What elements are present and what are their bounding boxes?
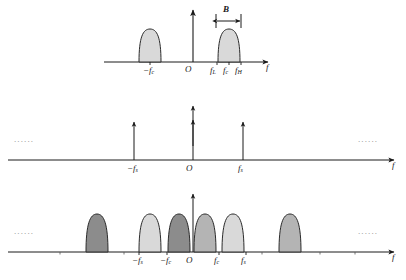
positive-lobe <box>218 29 240 62</box>
alias-lobe-6 <box>279 214 301 252</box>
bandwidth-indicator <box>216 14 241 28</box>
label-fc-panel1: fc <box>223 66 228 75</box>
label-minus-fc-panel3: −fc <box>160 256 171 265</box>
ellipsis-right-panel2: ...... <box>358 134 378 144</box>
axis-label-panel2: f <box>392 161 395 170</box>
label-fs-panel3: fs <box>241 256 246 265</box>
label-minus-fc-panel1: −fc <box>143 66 154 75</box>
alias-lobe-2 <box>139 214 161 252</box>
ellipsis-right-panel3: ...... <box>358 226 378 236</box>
label-minus-fs-panel3: −fs <box>132 256 143 265</box>
alias-lobe-3 <box>168 214 190 252</box>
figure-canvas <box>0 0 406 280</box>
alias-lobe-4 <box>194 214 216 252</box>
ellipsis-left-panel2: ...... <box>14 134 34 144</box>
figure-bandpass-sampling: O −fc fL fc fH f B ...... ...... −fs O f… <box>0 0 406 280</box>
label-fl: fL <box>210 66 216 75</box>
label-fs-panel2: fs <box>238 164 243 173</box>
panel-sampled-spectrum <box>8 194 394 255</box>
axis-label-panel3: f <box>392 253 395 262</box>
label-fh: fH <box>235 66 242 75</box>
origin-label-panel3: O <box>186 256 193 265</box>
alias-lobe-1 <box>86 214 108 252</box>
origin-label-panel1: O <box>185 65 192 74</box>
negative-lobe <box>139 29 161 62</box>
label-minus-fs-panel2: −fs <box>127 164 138 173</box>
ellipsis-left-panel3: ...... <box>14 226 34 236</box>
axis-label-panel1: f <box>266 63 269 72</box>
panel-sampling-impulse-train <box>8 106 394 160</box>
bandwidth-label: B <box>223 5 229 14</box>
label-fc-panel3: fc <box>214 256 219 265</box>
alias-lobe-5 <box>222 214 244 252</box>
origin-label-panel2: O <box>186 164 193 173</box>
panel-signal-spectrum <box>104 10 268 65</box>
